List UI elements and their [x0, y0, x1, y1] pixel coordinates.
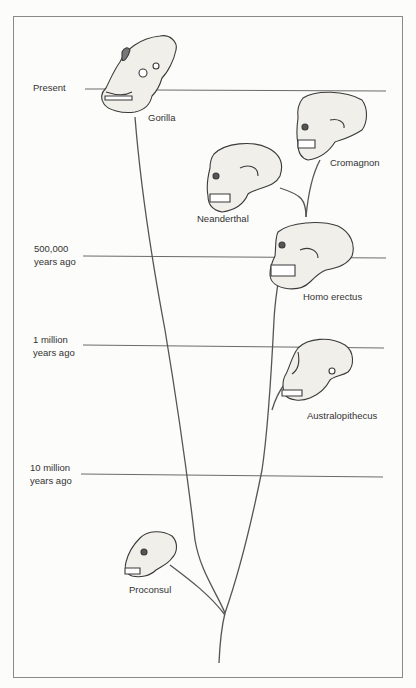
homo-erectus-skull-icon [270, 223, 353, 289]
timeline-label-line2: years ago [34, 256, 76, 269]
skulls [102, 36, 367, 577]
timeline-present-line [155, 90, 386, 91]
species-label-australopithecus: Australopithecus [307, 410, 377, 422]
timeline-label-line1: 500,000 [34, 243, 76, 256]
australopithecus-skull-icon [282, 339, 353, 400]
species-label-gorilla: Gorilla [148, 112, 175, 124]
species-label-homo-erectus: Homo erectus [303, 291, 362, 303]
timeline-label-500k: 500,000 years ago [34, 243, 76, 268]
timeline-label-1m: 1 million years ago [33, 334, 75, 359]
branch-trunk [219, 613, 225, 663]
branch-cromagnon [306, 160, 320, 217]
timeline-label-line1: 1 million [33, 334, 75, 347]
proconsul-skull-icon [125, 532, 177, 577]
species-label-proconsul: Proconsul [129, 584, 171, 596]
timeline-10m-line [81, 474, 383, 477]
branch-australopithecus [272, 385, 284, 410]
neanderthal-skull-icon [207, 143, 281, 212]
branch-neanderthal [280, 188, 306, 217]
species-label-neanderthal: Neanderthal [197, 213, 249, 225]
gorilla-skull-icon [102, 36, 176, 113]
species-label-cromagnon: Cromagnon [330, 157, 380, 169]
timeline-label-line2: years ago [33, 347, 75, 360]
timeline-label-line1: 10 million [30, 462, 72, 475]
timeline-label-line1: Present [33, 82, 66, 95]
timeline-label-10m: 10 million years ago [30, 462, 72, 487]
branch-proconsul [170, 565, 225, 615]
cromagnon-skull-icon [297, 92, 367, 160]
timeline-label-line2: years ago [30, 475, 72, 488]
timeline-label-present: Present [33, 82, 66, 95]
